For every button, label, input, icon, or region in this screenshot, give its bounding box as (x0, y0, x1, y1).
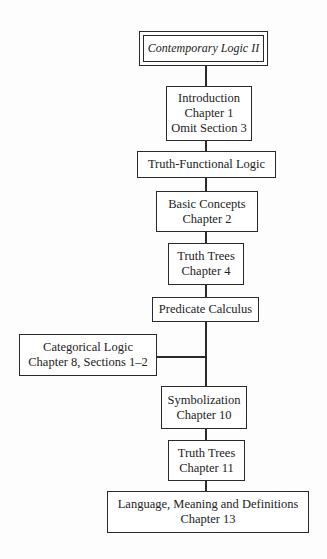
node-chapter: Chapter 1 (185, 106, 234, 121)
node-categorical-logic: Categorical Logic Chapter 8, Sections 1–… (19, 334, 157, 376)
connector-intro-tfl (205, 141, 207, 151)
connector-tt4-pred (205, 285, 207, 297)
node-label: Truth Trees (178, 446, 236, 461)
node-basic-concepts: Basic Concepts Chapter 2 (156, 191, 258, 232)
node-chapter: Chapter 2 (183, 212, 232, 227)
connector-tt11-lang (205, 481, 207, 491)
connector-tfl-basic (205, 178, 207, 191)
node-label: Predicate Calculus (159, 302, 252, 317)
node-truth-trees-ch11: Truth Trees Chapter 11 (168, 440, 245, 481)
node-language-meaning-definitions: Language, Meaning and Definitions Chapte… (107, 491, 309, 533)
connector-cat-branch (157, 356, 206, 358)
connector-sym-tt11 (205, 429, 207, 440)
node-symbolization: Symbolization Chapter 10 (161, 386, 247, 429)
connector-title-intro (205, 66, 207, 86)
connector-pred-sym (205, 322, 207, 386)
node-label: Introduction (178, 91, 240, 106)
node-note: Omit Section 3 (171, 121, 247, 136)
node-chapter: Chapter 11 (179, 461, 234, 476)
node-label: Symbolization (168, 393, 241, 408)
node-truth-trees-ch4: Truth Trees Chapter 4 (168, 243, 244, 285)
node-label: Truth Trees (177, 249, 235, 264)
connector-basic-tt4 (205, 232, 207, 243)
node-label: Language, Meaning and Definitions (118, 497, 299, 512)
node-chapter: Chapter 8, Sections 1–2 (28, 355, 147, 370)
node-chapter: Chapter 4 (182, 264, 231, 279)
node-introduction: Introduction Chapter 1 Omit Section 3 (166, 86, 252, 141)
node-chapter: Chapter 13 (180, 512, 235, 527)
node-label: Truth-Functional Logic (148, 157, 265, 172)
node-chapter: Chapter 10 (176, 408, 231, 423)
title-box: Contemporary Logic II (139, 31, 268, 66)
title-text: Contemporary Logic II (143, 35, 264, 62)
node-truth-functional-logic: Truth-Functional Logic (137, 151, 276, 178)
node-label: Basic Concepts (168, 197, 245, 212)
node-predicate-calculus: Predicate Calculus (152, 297, 259, 322)
node-label: Categorical Logic (43, 340, 133, 355)
